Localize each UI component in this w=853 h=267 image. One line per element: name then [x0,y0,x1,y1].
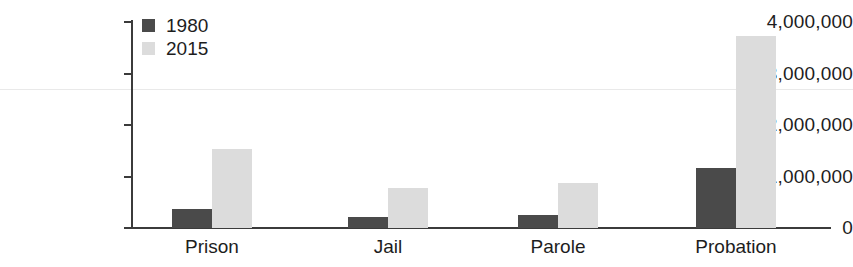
bar-probation-1980 [696,168,736,228]
y-axis-tick-mark [124,227,132,229]
bar-group [696,22,776,228]
bar-group [518,22,598,228]
legend-swatch-icon [142,19,155,32]
bar-parole-1980 [518,215,558,228]
plot-area [133,22,831,228]
chart-legend: 19802015 [142,14,208,60]
y-axis-tick-mark [124,124,132,126]
y-axis-tick-mark [124,21,132,23]
legend-item: 1980 [142,14,208,37]
x-axis-category-label: Probation [695,236,776,258]
y-axis-tick-mark [124,176,132,178]
bar-group [348,22,428,228]
bar-prison-1980 [172,209,212,228]
x-axis-category-label: Parole [531,236,586,258]
bar-prison-2015 [212,149,252,228]
bar-parole-2015 [558,183,598,228]
bar-jail-1980 [348,217,388,228]
x-axis-category-label: Jail [374,236,403,258]
y-axis-tick-mark [124,73,132,75]
bar-probation-2015 [736,36,776,228]
legend-label: 2015 [166,38,208,60]
legend-swatch-icon [142,42,155,55]
bar-chart-figure: 01,000,0002,000,0003,000,0004,000,000 Pr… [0,0,853,267]
x-axis-category-label: Prison [185,236,239,258]
bar-jail-2015 [388,188,428,228]
legend-item: 2015 [142,37,208,60]
legend-label: 1980 [166,15,208,37]
